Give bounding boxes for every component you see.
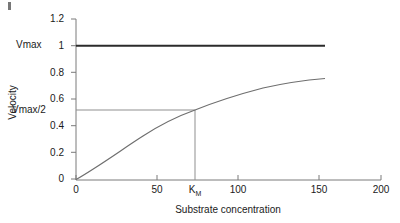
x-axis-title: Substrate concentration bbox=[128, 204, 328, 215]
y-axis-ticks bbox=[71, 19, 76, 179]
chart-screenshot: Velocity 1.2 1 0.8 0.6 0.4 0.2 0 Vmax Vm… bbox=[0, 0, 400, 223]
vmax-annotation-label: Vmax bbox=[16, 39, 42, 50]
y-tick-label-0.4: 0.4 bbox=[30, 120, 64, 131]
y-tick-label-0: 0 bbox=[30, 173, 64, 184]
km-label-subscript: M bbox=[195, 190, 201, 197]
michaelis-menten-curve bbox=[76, 79, 325, 180]
x-tick-label-200: 200 bbox=[361, 184, 400, 195]
x-axis-ticks bbox=[76, 175, 381, 180]
x-tick-label-100: 100 bbox=[218, 184, 258, 195]
y-tick-label-0.2: 0.2 bbox=[30, 147, 64, 158]
km-annotation-label: KM bbox=[175, 184, 215, 199]
y-tick-label-0.6: 0.6 bbox=[30, 93, 64, 104]
x-tick-label-0: 0 bbox=[56, 184, 96, 195]
x-tick-label-150: 150 bbox=[299, 184, 339, 195]
y-axis-title: Velocity bbox=[7, 73, 18, 133]
vmax-half-annotation-label: Vmax/2 bbox=[12, 104, 46, 115]
x-tick-label-50: 50 bbox=[137, 184, 177, 195]
y-tick-label-0.8: 0.8 bbox=[30, 67, 64, 78]
y-tick-label-1.2: 1.2 bbox=[30, 13, 64, 24]
